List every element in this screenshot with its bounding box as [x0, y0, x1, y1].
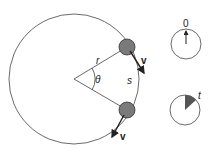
radius-lower	[74, 79, 127, 110]
angle-label: θ	[95, 74, 101, 85]
arc-label: s	[127, 75, 132, 86]
velocity-label-lower: v	[120, 131, 126, 142]
velocity-label-upper: v	[141, 55, 147, 66]
ball-upper	[119, 39, 135, 55]
ball-lower	[119, 102, 135, 118]
clock-end-wedge	[185, 95, 196, 110]
clock-end-label: t	[198, 90, 202, 101]
radius-upper	[74, 47, 127, 79]
circular-motion-diagram: r θ s v v 0 t	[0, 0, 213, 149]
clock-start-label: 0	[183, 18, 189, 29]
radius-label: r	[96, 55, 100, 66]
